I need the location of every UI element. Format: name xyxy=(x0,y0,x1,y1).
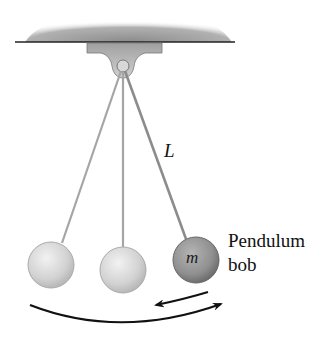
bob-left xyxy=(28,242,74,288)
length-label: L xyxy=(164,140,175,162)
ceiling-support xyxy=(15,12,235,42)
bob-caption-line1: Pendulum xyxy=(228,230,305,252)
pendulum-diagram xyxy=(0,0,329,355)
pivot-pin-icon xyxy=(117,60,129,72)
bob-center xyxy=(100,247,146,293)
bob-caption-line2: bob xyxy=(228,254,257,276)
mass-label: m xyxy=(186,248,198,268)
swing-arc-arrow xyxy=(30,304,221,322)
return-arrow xyxy=(156,292,208,305)
